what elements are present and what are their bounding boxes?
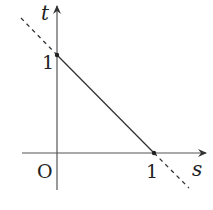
y-tick-label: 1 — [42, 51, 54, 73]
point-x-intercept — [152, 151, 156, 155]
solid-segment — [57, 55, 154, 153]
dashed-extension-lower — [154, 153, 189, 188]
coordinate-diagram: t 1 O 1 s — [0, 0, 213, 210]
s-axis-label: s — [192, 157, 202, 181]
dashed-extension-upper — [21, 18, 57, 55]
origin-label: O — [37, 160, 53, 182]
point-y-intercept — [55, 53, 59, 57]
graph-canvas: t 1 O 1 s — [0, 0, 213, 210]
x-tick-label: 1 — [146, 160, 158, 182]
t-axis-label: t — [41, 1, 50, 25]
